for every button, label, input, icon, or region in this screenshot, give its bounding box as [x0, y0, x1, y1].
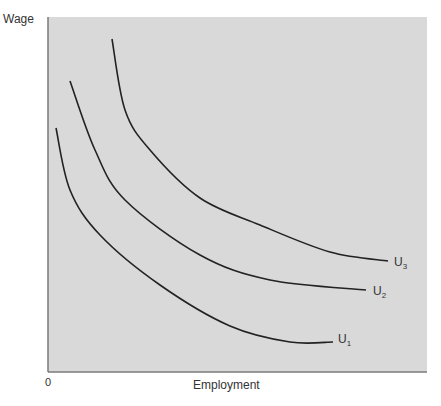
- y-axis-label: Wage: [3, 12, 34, 26]
- plot-area: [48, 17, 427, 372]
- origin-label: 0: [45, 376, 51, 388]
- curve-label-u3: U3: [394, 255, 407, 271]
- curve-label-u2: U2: [373, 284, 386, 300]
- curve-label-u1: U1: [338, 332, 351, 348]
- indifference-curve-chart: [0, 0, 441, 406]
- x-axis-label: Employment: [193, 378, 260, 392]
